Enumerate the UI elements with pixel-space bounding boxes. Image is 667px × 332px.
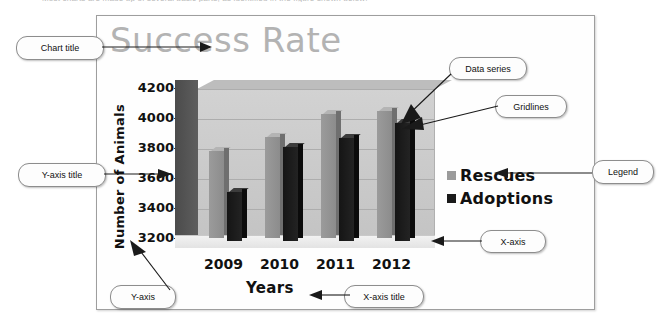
callout-x-axis[interactable]: X-axis bbox=[480, 230, 546, 253]
bar-adoptions-2009[interactable] bbox=[227, 192, 242, 242]
plot-side-wall bbox=[175, 80, 198, 240]
x-axis-tick-label: 2011 bbox=[316, 256, 355, 272]
legend-swatch-icon bbox=[447, 194, 456, 203]
leader-line-y-axis-title bbox=[102, 165, 178, 185]
leader-line-chart-title bbox=[100, 38, 220, 58]
callout-legend[interactable]: Legend bbox=[592, 160, 654, 184]
leader-line-y-axis bbox=[126, 238, 186, 298]
x-axis-title: Years bbox=[246, 279, 294, 297]
leader-line-gridlines bbox=[398, 100, 508, 132]
bar-adoptions-2011[interactable] bbox=[339, 138, 354, 242]
leader-line-x-axis-title bbox=[306, 285, 356, 305]
y-axis-tick-label: 4200 bbox=[130, 80, 174, 95]
callout-chart-title[interactable]: Chart title bbox=[16, 36, 104, 60]
y-axis-tick-label: 3800 bbox=[130, 140, 174, 155]
bar-rescues-2010[interactable] bbox=[265, 137, 280, 238]
callout-y-axis-title[interactable]: Y-axis title bbox=[18, 163, 106, 187]
x-axis-tick-label: 2009 bbox=[204, 256, 243, 272]
bar-adoptions-2010[interactable] bbox=[283, 147, 298, 241]
bar-rescues-2011[interactable] bbox=[321, 114, 336, 238]
x-axis-tick-label: 2012 bbox=[372, 256, 411, 272]
bar-rescues-2009[interactable] bbox=[209, 151, 224, 238]
bar-rescues-2012[interactable] bbox=[377, 111, 392, 238]
y-axis-tick-label: 4000 bbox=[130, 110, 174, 125]
callout-x-axis-title[interactable]: X-axis title bbox=[344, 285, 424, 308]
legend-label: Adoptions bbox=[460, 189, 553, 208]
y-axis-tick-label: 3400 bbox=[130, 200, 174, 215]
x-axis-tick-label: 2010 bbox=[260, 256, 299, 272]
legend-item-adoptions[interactable]: Adoptions bbox=[447, 189, 553, 208]
leader-line-legend bbox=[488, 163, 598, 183]
page-caption: Most charts are made up of several basic… bbox=[42, 0, 642, 2]
legend-swatch-icon bbox=[447, 171, 456, 180]
figure-root: Most charts are made up of several basic… bbox=[0, 0, 667, 332]
leader-line-x-axis bbox=[428, 231, 488, 251]
bar-adoptions-2012[interactable] bbox=[395, 123, 410, 241]
